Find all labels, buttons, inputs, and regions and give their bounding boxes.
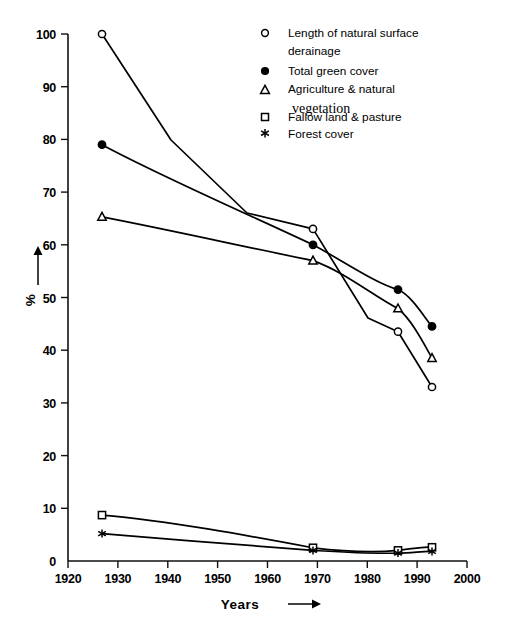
data-point-marker <box>98 512 105 519</box>
data-point-marker <box>98 212 106 220</box>
legend-label-line1: Length of natural surface <box>288 26 419 40</box>
series-line-forest-cover <box>102 534 432 554</box>
series-forest-cover <box>98 530 436 558</box>
legend-marker-filled-circle-icon <box>262 68 269 75</box>
x-tick-label-1960: 1960 <box>254 572 281 586</box>
y-tick-label-60: 60 <box>43 239 57 253</box>
data-point-marker <box>428 323 435 330</box>
y-tick-label-50: 50 <box>43 292 57 306</box>
legend-item-fallow-land-pasture: Fallow land & pasture <box>262 110 402 124</box>
data-point-marker <box>394 286 401 293</box>
chart-figure: 100 90 80 70 60 50 40 30 20 10 0 1920 <box>0 0 513 624</box>
data-point-marker <box>394 328 401 335</box>
y-tick-label-20: 20 <box>43 450 57 464</box>
y-tick-label-0: 0 <box>49 555 56 569</box>
y-tick-label-10: 10 <box>43 502 57 516</box>
legend-marker-star-icon <box>261 129 269 137</box>
legend-label-line1: Agriculture & natural <box>288 82 395 96</box>
y-tick-label-100: 100 <box>36 28 56 42</box>
x-tick-label-1930: 1930 <box>105 572 132 586</box>
legend-label-line1: Total green cover <box>288 64 379 78</box>
legend-item-natural-surface-derainage: Length of natural surface derainage <box>262 26 419 58</box>
data-point-marker <box>428 383 435 390</box>
y-tick-label-40: 40 <box>43 344 57 358</box>
legend-item-forest-cover: Forest cover <box>261 127 354 141</box>
chart-legend: Length of natural surface derainage Tota… <box>261 26 419 141</box>
data-point-marker <box>98 141 105 148</box>
x-tick-label-1950: 1950 <box>204 572 231 586</box>
x-axis-title: Years <box>221 597 260 612</box>
x-axis-ticks <box>68 561 467 568</box>
x-axis-tick-labels: 1920 1930 1940 1950 1960 1970 1980 1990 … <box>55 572 481 586</box>
series-agriculture-and-natural-vegetation <box>98 212 436 361</box>
series-line-agriculture-natural-vegetation <box>102 217 432 358</box>
x-tick-label-1920: 1920 <box>55 572 82 586</box>
legend-item-total-green-cover: Total green cover <box>262 64 379 78</box>
legend-label-line1: Fallow land & pasture <box>288 110 402 124</box>
line-chart-svg: 100 90 80 70 60 50 40 30 20 10 0 1920 <box>0 0 513 624</box>
legend-label-line1: Forest cover <box>288 127 354 141</box>
x-tick-label-1970: 1970 <box>304 572 331 586</box>
x-axis-title-arrow-head <box>312 600 321 609</box>
y-tick-label-80: 80 <box>43 133 57 147</box>
y-tick-label-70: 70 <box>43 186 57 200</box>
y-axis-title-arrow-head <box>34 246 43 255</box>
legend-marker-open-square-icon <box>262 114 269 121</box>
data-point-marker <box>98 30 105 37</box>
x-tick-label-1940: 1940 <box>154 572 181 586</box>
y-axis-tick-labels: 100 90 80 70 60 50 40 30 20 10 0 <box>36 28 56 569</box>
data-point-marker <box>428 354 436 362</box>
y-axis-title: % <box>23 294 38 307</box>
data-point-marker <box>309 225 316 232</box>
y-tick-label-30: 30 <box>43 397 57 411</box>
legend-label-line2: derainage <box>288 44 341 58</box>
data-point-marker <box>309 256 317 264</box>
x-tick-label-1980: 1980 <box>354 572 381 586</box>
x-tick-label-1990: 1990 <box>404 572 431 586</box>
legend-marker-open-triangle-icon <box>261 85 270 93</box>
legend-marker-open-circle-icon <box>262 30 269 37</box>
y-axis-ticks <box>61 34 68 508</box>
x-tick-label-2000: 2000 <box>454 572 481 586</box>
data-point-marker <box>309 241 316 248</box>
y-tick-label-90: 90 <box>43 81 57 95</box>
data-point-marker <box>394 304 402 312</box>
